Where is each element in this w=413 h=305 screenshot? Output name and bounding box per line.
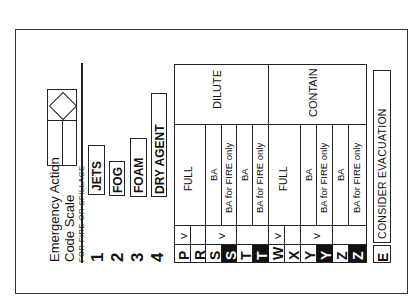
media-num-2: 2 [108,253,128,262]
v-cell-p: V [175,226,191,245]
code-y-inverted: Y [317,245,333,262]
code-s-inverted: S [222,245,237,262]
v-cell-y: V [301,226,333,245]
code-t: T [237,245,253,262]
code-y: Y [301,245,317,262]
media-num-1: 1 [88,253,108,262]
code-s: S [206,245,222,262]
prot-ba-y: BA [301,125,317,226]
prot-full-wx: FULL [269,125,301,226]
media-jets: JETS [88,145,105,195]
prot-bafire-z: BA for FIRE only [349,125,366,226]
media-dry-agent: DRY AGENT [151,93,167,197]
evacuation-code: E [373,245,391,263]
v-cell-r [191,226,206,245]
code-x: X [285,245,301,262]
code-r: R [191,245,206,262]
code-p: P [175,245,191,262]
group-contain: CONTAIN [269,65,366,125]
media-num-3: 3 [128,253,148,262]
group-dilute: DILUTE [175,65,269,125]
code-z-inverted: Z [349,245,366,262]
prot-bafire-t: BA for FIRE only [253,125,269,226]
code-z: Z [333,245,349,262]
action-table: DILUTE CONTAIN FULL BA BA for FIRE only … [174,64,367,263]
media-num-4: 4 [148,253,168,262]
prot-full-pr: FULL [175,125,206,226]
prot-ba-s: BA [206,125,222,226]
v-cell-t [237,226,269,245]
hazard-symbol [47,89,77,166]
media-foam: FOAM [130,138,147,197]
code-w: W [269,245,285,262]
title-line2: Code Scale [62,195,77,262]
diamond-icon [49,92,77,120]
v-cell-z [333,226,366,245]
prot-ba-z: BA [333,125,349,226]
v-cell-s: V [206,226,237,245]
evacuation-box: CONSIDER EVACUATION [373,70,391,243]
prot-bafire-s: BA for FIRE only [222,125,237,226]
title-line1: Emergency Action [47,157,62,262]
v-cell-w: V [269,226,285,245]
prot-bafire-y: BA for FIRE only [317,125,333,226]
v-cell-x [285,226,301,245]
prot-ba-t: BA [237,125,253,226]
code-t-inverted: T [253,245,269,262]
media-fog: FOG [109,161,125,196]
title-divider [81,63,83,263]
